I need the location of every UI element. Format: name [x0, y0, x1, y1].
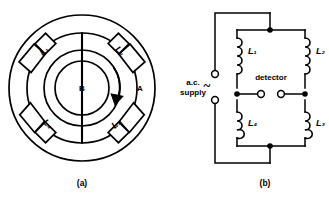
region-label-b: B	[79, 84, 85, 93]
inductor-coil-l3	[305, 112, 312, 139]
junction-dot-left	[234, 91, 240, 97]
supply-terminal-top[interactable]	[212, 71, 219, 78]
detector-terminal-right[interactable]	[278, 91, 285, 98]
inductor-coil-l1	[237, 38, 242, 74]
caption-panel-b: (b)	[260, 178, 271, 188]
junction-dot-right	[302, 91, 308, 97]
panel-a-diagram: L₁ L₂ L₄ L₃	[0, 0, 165, 200]
inductor-coil-l2	[305, 38, 310, 74]
caption-panel-a: (a)	[77, 178, 88, 188]
inductor-label-l3: L₃	[316, 118, 325, 128]
region-label-a: A	[137, 84, 143, 93]
inductor-coil-l4	[237, 112, 244, 139]
coil-assembly-l3: L₃	[106, 103, 146, 143]
detector-label: detector	[255, 73, 287, 82]
inductor-label-l1: L₁	[248, 46, 257, 56]
figure-container: L₁ L₂ L₄ L₃	[0, 0, 329, 200]
detector-terminal-left[interactable]	[258, 91, 265, 98]
supply-lead-bottom	[215, 103, 270, 163]
ac-tilde-icon: ~	[204, 78, 211, 93]
coil-assembly-l2: L₂	[106, 33, 146, 73]
panel-b-diagram: L₁ L₂ L₄ L₃	[165, 0, 329, 200]
coil-assembly-l1: L₁	[18, 33, 58, 73]
supply-label-line1: a.c.	[186, 78, 199, 87]
supply-terminal-bottom[interactable]	[212, 97, 219, 104]
supply-label-line2: supply	[180, 88, 206, 97]
junction-dot-bottom	[267, 143, 273, 149]
coil-assembly-l4: L₄	[18, 103, 58, 143]
inductor-label-l4: L₄	[248, 118, 257, 128]
inductor-label-l2: L₂	[316, 46, 325, 56]
junction-dot-top	[267, 27, 273, 33]
